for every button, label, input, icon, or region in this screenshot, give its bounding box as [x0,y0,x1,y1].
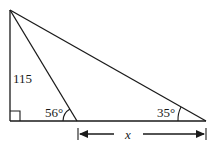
arrowhead-left-icon [79,130,88,138]
side-label-115: 115 [13,71,32,86]
unknown-label-x: x [124,127,131,142]
hypotenuse [10,10,206,121]
angle-label-35: 35° [157,105,175,120]
right-angle-marker [10,111,20,121]
angle-arc-56 [63,109,70,121]
arrowhead-right-icon [196,130,205,138]
angle-arc-35 [178,107,181,121]
angle-label-56: 56° [45,105,63,120]
inner-line [10,10,77,121]
triangle-diagram: 115 56° 35° x [0,0,216,151]
